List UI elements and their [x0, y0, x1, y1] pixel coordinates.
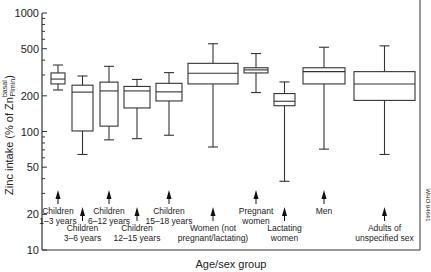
y-tick-label: 200 — [21, 90, 39, 102]
category-label-line: Adults of — [368, 223, 402, 233]
arrow-up-icon — [254, 190, 259, 199]
category-label-line: Children — [42, 206, 74, 216]
box-3 — [100, 66, 118, 140]
iqr-box — [51, 73, 65, 84]
iqr-box — [100, 82, 118, 126]
y-tick-label: 1000 — [15, 7, 39, 19]
category-label-line: women — [241, 216, 270, 226]
y-tick-label: 50 — [27, 161, 39, 173]
chart-canvas: 1020501002005001000 Children1–3 yearsChi… — [0, 0, 431, 272]
box-6 — [188, 44, 238, 147]
category-label-line: Women (not — [190, 223, 237, 233]
category-label-line: 15–18 years — [146, 216, 193, 226]
arrow-up-icon — [382, 207, 387, 216]
category-label-line: Lactating — [267, 223, 302, 233]
svg-text:Zinc intake (% of ZnbasalPlmin: Zinc intake (% of ZnbasalPlmin) — [1, 75, 16, 195]
category-label-line: 12–15 years — [114, 233, 161, 243]
category-labels: Children1–3 yearsChildren3–6 yearsChildr… — [39, 190, 414, 243]
box-plot-chart: 1020501002005001000 Children1–3 yearsChi… — [0, 0, 431, 272]
category-label-line: Pregnant — [239, 206, 274, 216]
arrow-up-icon — [167, 190, 172, 199]
arrow-up-icon — [211, 207, 216, 216]
x-axis-label: Age/sex group — [196, 258, 267, 270]
iqr-box — [354, 72, 415, 101]
category-label-line: pregnant/lactating) — [178, 233, 249, 243]
iqr-box — [303, 68, 345, 84]
box-1 — [51, 65, 65, 90]
arrow-up-icon — [56, 190, 61, 199]
box-series — [51, 44, 415, 182]
category-label-line: Children — [153, 206, 185, 216]
category-label-10: Adults ofunspecified sex — [355, 207, 414, 243]
category-label-line: Children — [93, 206, 125, 216]
watermark-text: WHO 94641 — [425, 188, 431, 222]
y-tick-label: 100 — [21, 126, 39, 138]
box-4 — [124, 79, 150, 138]
category-label-line: women — [270, 233, 299, 243]
y-axis-label: Zinc intake (% of ZnbasalPlmin) — [1, 75, 16, 195]
y-axis-label-main: Zinc intake (% of Zn — [3, 97, 15, 195]
y-tick-label: 500 — [21, 43, 39, 55]
box-5 — [156, 73, 182, 136]
category-label-9: Men — [316, 190, 333, 216]
arrow-up-icon — [107, 190, 112, 199]
box-7 — [244, 54, 268, 93]
category-label-5: Children15–18 years — [146, 190, 193, 226]
category-label-7: Pregnantwomen — [239, 190, 274, 226]
box-2 — [72, 76, 93, 154]
arrow-up-icon — [135, 207, 140, 216]
box-10 — [354, 46, 415, 155]
category-label-line: Men — [316, 206, 333, 216]
arrow-up-icon — [322, 190, 327, 199]
y-tick-label: 10 — [27, 244, 39, 256]
box-8 — [274, 82, 295, 181]
y-axis-label-close: ) — [3, 75, 15, 79]
category-label-3: Children6–12 years — [88, 190, 130, 226]
arrow-up-icon — [282, 207, 287, 216]
category-label-line: 3–6 years — [64, 233, 101, 243]
arrow-up-icon — [80, 207, 85, 216]
y-tick-label: 20 — [27, 208, 39, 220]
category-label-1: Children1–3 years — [39, 190, 76, 226]
box-9 — [303, 47, 345, 149]
category-label-line: unspecified sex — [355, 233, 414, 243]
iqr-box — [274, 94, 295, 106]
y-axis-label-sup: basal — [1, 80, 8, 97]
y-axis-label-sub: Plmin — [9, 79, 16, 97]
iqr-box — [124, 86, 150, 108]
